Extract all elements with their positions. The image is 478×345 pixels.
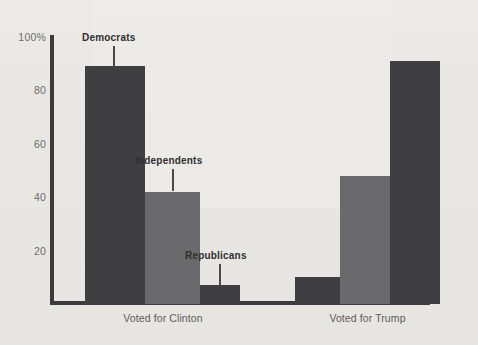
annotation-label-democrats: Democrats xyxy=(82,32,136,43)
annotation-label-independents: Independents xyxy=(135,155,202,166)
group-label-clinton: Voted for Clinton xyxy=(88,312,238,324)
y-tick-100: 100% xyxy=(0,32,46,43)
bar-clinton-republicans xyxy=(200,285,240,304)
y-axis-line xyxy=(50,35,54,305)
bar-trump-republicans xyxy=(390,61,440,304)
y-tick-label-80: 80 xyxy=(2,85,46,96)
annotation-label-republicans: Republicans xyxy=(185,250,247,261)
bar-chart: 100% 80 60 40 20 Voted for Clinton Voted… xyxy=(0,0,478,345)
annotation-leader-line-independents xyxy=(172,169,174,191)
y-tick-20: 20 xyxy=(0,246,46,257)
y-tick-label-60: 60 xyxy=(2,139,46,150)
bar-clinton-democrats xyxy=(85,66,145,304)
group-label-trump: Voted for Trump xyxy=(295,312,440,324)
annotation-leader-line-democrats xyxy=(113,46,115,67)
y-tick-80: 80 xyxy=(0,85,46,96)
bar-clinton-independents xyxy=(145,192,200,304)
y-tick-40: 40 xyxy=(0,192,46,203)
annotation-leader-line-republicans xyxy=(219,264,221,285)
bar-trump-independents xyxy=(340,176,390,304)
y-tick-60: 60 xyxy=(0,139,46,150)
y-tick-label-20: 20 xyxy=(2,246,46,257)
y-tick-label-40: 40 xyxy=(2,192,46,203)
y-tick-label-100: 100% xyxy=(2,32,46,43)
bar-trump-democrats xyxy=(295,277,340,304)
